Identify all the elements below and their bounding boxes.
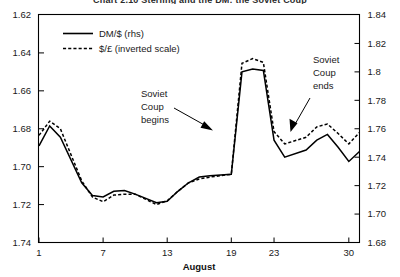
left-axis-tick-label: 1.72: [13, 199, 32, 210]
left-axis-tick-label: 1.70: [13, 161, 32, 172]
x-axis-tick-label: 19: [226, 247, 237, 258]
annotation-soviet-coup-begins: Soviet Coup begins: [141, 88, 213, 131]
series-line-dollar-pound: [39, 59, 360, 205]
annotation-ends-line-2: Coup: [313, 67, 336, 78]
x-axis-tick-label: 30: [344, 247, 355, 258]
annotation-begins-line-1: Soviet: [141, 88, 168, 99]
chart-legend: DM/$ (rhs) $/£ (inverted scale): [63, 28, 180, 54]
x-axis: 1713192330: [36, 238, 354, 258]
annotation-ends-arrow-head: [290, 119, 298, 132]
legend-label-dollar-pound: $/£ (inverted scale): [99, 43, 180, 54]
left-axis-tick-label: 1.74: [13, 237, 32, 248]
left-axis-tick-label: 1.66: [13, 85, 32, 96]
annotation-ends-line-3: ends: [313, 80, 334, 91]
right-axis-tick-label: 1.84: [368, 9, 387, 20]
right-axis-tick-label: 1.78: [368, 95, 387, 106]
annotation-begins-line-2: Coup: [141, 101, 164, 112]
right-axis-tick-label: 1.82: [368, 38, 387, 49]
x-axis-tick-label: 23: [269, 247, 280, 258]
x-axis-tick-label: 1: [36, 247, 41, 258]
left-axis-tick-label: 1.68: [13, 123, 32, 134]
chart-figure: Chart 2.10 Sterling and the DM: the Sovi…: [0, 0, 400, 277]
right-axis-tick-label: 1.76: [368, 123, 387, 134]
annotation-ends-arrow-line: [294, 98, 310, 126]
x-axis-tick-label: 13: [162, 247, 173, 258]
annotation-ends-line-1: Soviet: [313, 54, 340, 65]
series-line-dm-dollar: [39, 69, 360, 203]
chart-canvas: 1.621.641.661.681.701.721.74 1.841.821.8…: [0, 0, 400, 277]
x-axis-title: August: [183, 261, 217, 272]
annotation-soviet-coup-ends: Soviet Coup ends: [290, 54, 340, 132]
right-axis-tick-label: 1.74: [368, 152, 387, 163]
legend-label-dm-dollar: DM/$ (rhs): [99, 28, 144, 39]
right-axis-tick-label: 1.8: [368, 66, 381, 77]
annotation-begins-arrow-head: [201, 121, 214, 130]
left-axis-tick-label: 1.62: [13, 9, 32, 20]
right-axis-tick-label: 1.68: [368, 237, 387, 248]
right-axis-tick-label: 1.72: [368, 180, 387, 191]
right-axis-tick-label: 1.70: [368, 208, 387, 219]
x-axis-tick-label: 7: [100, 247, 105, 258]
annotation-begins-line-3: begins: [141, 114, 169, 125]
left-axis-tick-label: 1.64: [13, 47, 32, 58]
left-axis: 1.621.641.661.681.701.721.74: [13, 9, 45, 248]
